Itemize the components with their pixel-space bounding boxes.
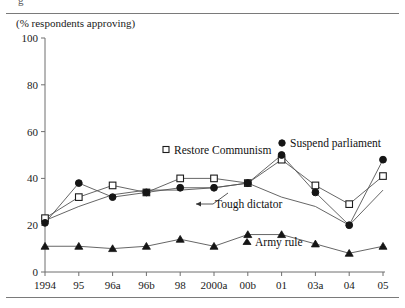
x-tick-label: 98	[175, 279, 187, 291]
x-tick-label: 05	[378, 279, 390, 291]
data-point-marker	[346, 201, 353, 208]
data-point-marker	[75, 180, 82, 187]
x-tick-label: 00b	[240, 279, 257, 291]
y-tick-label: 100	[22, 32, 39, 44]
data-point-marker	[76, 194, 83, 201]
x-tick-label: 1994	[34, 279, 57, 291]
x-tick-label: 96b	[138, 279, 155, 291]
x-tick-label: 95	[73, 279, 85, 291]
figure-container: g (% respondents approving) 020406080100…	[0, 0, 405, 308]
x-tick-label: 96a	[105, 279, 121, 291]
annotation-label: Restore Communism	[174, 144, 271, 156]
line-chart: 020406080100 19949596a96b982000a00b0103a…	[0, 0, 405, 308]
annotation-label: Tough dictator	[215, 198, 282, 211]
y-tick-label: 40	[27, 172, 39, 184]
data-point-marker	[177, 184, 184, 191]
x-tick-label: 2000a	[201, 279, 228, 291]
data-point-marker	[278, 152, 285, 159]
data-point-marker	[380, 156, 387, 163]
data-point-marker	[42, 219, 49, 226]
data-point-marker	[109, 182, 116, 189]
data-point-marker	[176, 235, 184, 242]
x-tick-label: 03a	[307, 279, 323, 291]
y-axis-tick-labels: 020406080100	[22, 32, 39, 278]
data-point-marker	[312, 182, 319, 189]
annotation-label: Suspend parliament	[290, 137, 382, 150]
y-tick-label: 80	[27, 79, 39, 91]
annotation-marker-filled-circle	[279, 140, 285, 146]
data-point-marker	[109, 194, 116, 201]
data-point-marker	[380, 173, 387, 180]
data-point-marker	[244, 180, 251, 187]
y-tick-label: 60	[27, 126, 39, 138]
y-tick-label: 20	[27, 219, 39, 231]
series-markers	[41, 152, 387, 257]
annotation-label: Army rule	[255, 236, 303, 249]
data-point-marker	[211, 184, 218, 191]
data-point-marker	[379, 242, 387, 249]
x-tick-label: 01	[276, 279, 287, 291]
series-lines	[45, 155, 383, 253]
x-axis-tick-labels: 19949596a96b982000a00b0103a0405	[34, 279, 389, 291]
annotation-arrow-icon	[196, 202, 201, 207]
data-point-marker	[143, 189, 150, 196]
data-point-marker	[177, 175, 184, 182]
data-point-marker	[211, 175, 218, 182]
annotation-marker-open-square	[163, 147, 169, 153]
x-tick-label: 04	[344, 279, 356, 291]
data-point-marker	[346, 222, 353, 229]
annotation-marker-filled-triangle	[243, 239, 251, 245]
chart-axes	[41, 38, 385, 276]
data-point-marker	[312, 189, 319, 196]
y-tick-label: 0	[33, 266, 39, 278]
